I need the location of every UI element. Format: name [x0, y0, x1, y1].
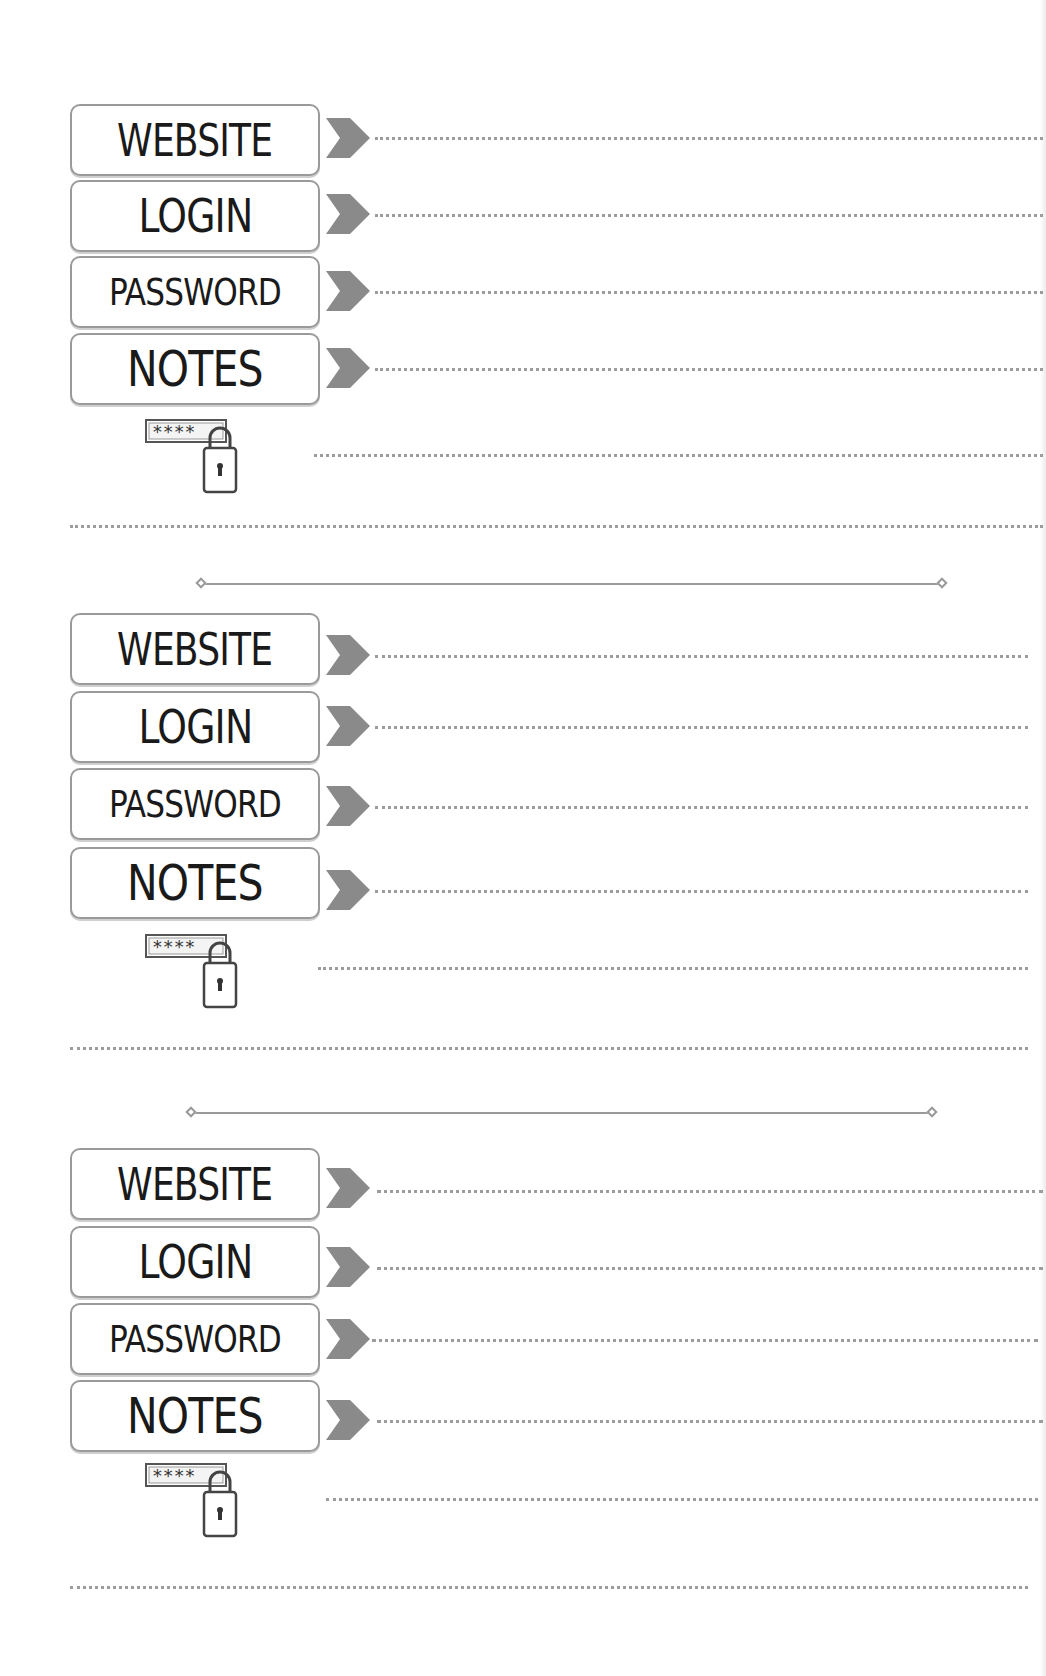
- notes-label: NOTES: [127, 854, 263, 912]
- bottom-write-line[interactable]: [70, 1047, 1028, 1050]
- chevron-right-icon: [326, 192, 370, 236]
- chevron-right-icon: [326, 784, 370, 828]
- website-label: WEBSITE: [117, 115, 272, 166]
- website-label: WEBSITE: [117, 624, 272, 675]
- login-label-box: LOGIN: [70, 1226, 320, 1298]
- login-write-line[interactable]: [375, 214, 1043, 217]
- chevron-right-icon: [326, 704, 370, 748]
- chevron-right-icon: [326, 116, 370, 160]
- notes-label: NOTES: [127, 1387, 263, 1445]
- notes-write-line[interactable]: [375, 368, 1043, 371]
- website-write-line[interactable]: [377, 1190, 1043, 1193]
- chevron-right-icon: [326, 1166, 370, 1210]
- password-label: PASSWORD: [109, 270, 281, 314]
- website-label-box: WEBSITE: [70, 1148, 320, 1220]
- website-label-box: WEBSITE: [70, 613, 320, 685]
- website-write-line[interactable]: [375, 655, 1028, 658]
- login-label: LOGIN: [138, 1235, 252, 1289]
- website-label: WEBSITE: [117, 1159, 272, 1210]
- login-write-line[interactable]: [375, 726, 1028, 729]
- bottom-write-line[interactable]: [70, 525, 1043, 528]
- notes-write-line[interactable]: [375, 890, 1028, 893]
- extra-write-line[interactable]: [314, 454, 1043, 457]
- password-write-line[interactable]: [375, 291, 1043, 294]
- password-lock-icon: [144, 933, 254, 1013]
- chevron-right-icon: [326, 1245, 370, 1289]
- login-label: LOGIN: [138, 700, 252, 754]
- notes-label-box: NOTES: [70, 847, 320, 919]
- divider-knob-right: [936, 577, 947, 588]
- login-label: LOGIN: [138, 189, 252, 243]
- chevron-right-icon: [326, 269, 370, 313]
- password-label-box: PASSWORD: [70, 256, 320, 328]
- chevron-right-icon: [326, 1317, 370, 1361]
- notes-label: NOTES: [127, 340, 263, 398]
- password-label: PASSWORD: [109, 782, 281, 826]
- page-edge-shadow: [1040, 0, 1046, 1676]
- password-write-line[interactable]: [372, 1339, 1038, 1342]
- section-divider: [203, 583, 940, 585]
- chevron-right-icon: [326, 346, 370, 390]
- section-divider: [193, 1112, 930, 1114]
- chevron-right-icon: [326, 633, 370, 677]
- login-write-line[interactable]: [377, 1267, 1043, 1270]
- website-label-box: WEBSITE: [70, 104, 320, 176]
- password-label: PASSWORD: [109, 1317, 281, 1361]
- chevron-right-icon: [326, 868, 370, 912]
- extra-write-line[interactable]: [326, 1498, 1038, 1501]
- extra-write-line[interactable]: [318, 967, 1028, 970]
- login-label-box: LOGIN: [70, 691, 320, 763]
- notes-label-box: NOTES: [70, 333, 320, 405]
- password-write-line[interactable]: [375, 806, 1028, 809]
- chevron-right-icon: [326, 1398, 370, 1442]
- website-write-line[interactable]: [375, 137, 1043, 140]
- divider-knob-left: [185, 1106, 196, 1117]
- login-label-box: LOGIN: [70, 180, 320, 252]
- divider-knob-right: [926, 1106, 937, 1117]
- password-label-box: PASSWORD: [70, 1303, 320, 1375]
- bottom-write-line[interactable]: [70, 1586, 1028, 1589]
- divider-knob-left: [195, 577, 206, 588]
- notes-write-line[interactable]: [377, 1420, 1043, 1423]
- password-lock-icon: [144, 418, 254, 498]
- password-label-box: PASSWORD: [70, 768, 320, 840]
- notes-label-box: NOTES: [70, 1380, 320, 1452]
- password-lock-icon: [144, 1462, 254, 1542]
